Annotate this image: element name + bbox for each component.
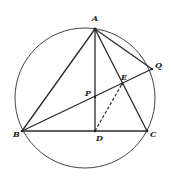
circumcircle	[15, 28, 155, 168]
label-q: Q	[155, 60, 162, 70]
label-c: C	[150, 129, 157, 139]
label-d: D	[95, 133, 103, 143]
segment-aq	[95, 29, 152, 69]
label-p: P	[84, 88, 92, 98]
point-e	[121, 83, 123, 85]
point-d	[94, 130, 96, 132]
point-a	[93, 27, 96, 30]
label-b: B	[12, 129, 20, 139]
point-c	[146, 130, 149, 133]
segment-bq	[22, 69, 152, 131]
segment-ab	[22, 29, 95, 131]
point-p	[94, 96, 96, 98]
geometry-diagram: A Q E P B D C	[0, 0, 171, 179]
point-q	[151, 68, 154, 71]
label-a: A	[91, 13, 98, 23]
segment-de-dashed	[95, 84, 122, 131]
label-e: E	[120, 72, 128, 82]
point-b	[21, 130, 24, 133]
